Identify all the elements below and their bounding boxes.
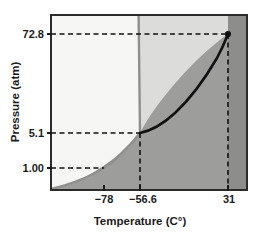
phase-diagram-canvas: 72.8 5.1 1.00 −78 −56.6 31 Pressure (atm… <box>0 0 258 239</box>
y-tick-label-1-00: 1.00 <box>23 162 44 174</box>
phase-diagram-figure: 72.8 5.1 1.00 −78 −56.6 31 Pressure (atm… <box>0 0 258 239</box>
x-tick-label-minus-78: −78 <box>95 193 114 205</box>
y-tick-label-5-1: 5.1 <box>29 127 44 139</box>
critical-point-marker <box>225 31 231 37</box>
x-tick-label-31: 31 <box>223 193 235 205</box>
y-axis-title: Pressure (atm) <box>9 62 21 143</box>
x-tick-label-minus-56-6: −56.6 <box>129 193 157 205</box>
region-fills <box>51 15 247 190</box>
supercritical-region <box>228 15 247 190</box>
fusion-curve <box>139 15 140 133</box>
x-axis-title: Temperature (C°) <box>94 215 187 227</box>
y-tick-label-72-8: 72.8 <box>23 28 44 40</box>
